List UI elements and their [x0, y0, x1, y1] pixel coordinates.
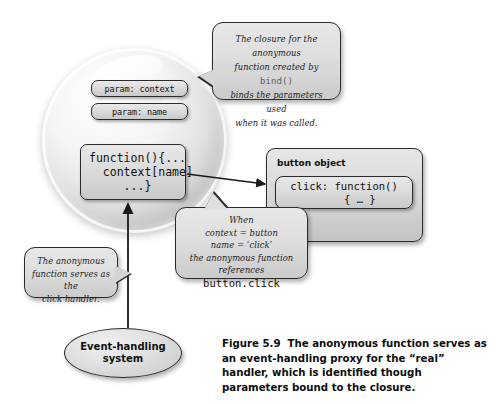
figure-number: Figure 5.9: [222, 338, 281, 349]
bubble-closure-line1: The closure for the anonymous: [220, 32, 333, 60]
bubble-handler-line3: click handler.: [30, 293, 112, 306]
bubble-closure-line2: function created by bind(): [220, 60, 333, 88]
param-name-box: param: name: [91, 103, 188, 120]
click-property-box: click: function() { … }: [275, 176, 413, 209]
bubble-closure: The closure for the anonymous function c…: [212, 22, 341, 100]
bubble-closure-line4: when it was called.: [220, 116, 333, 130]
anonymous-function-box: function(){... context[name] ...}: [80, 144, 186, 200]
figure-caption: Figure 5.9The anonymous function serves …: [222, 337, 490, 395]
bubble-when: When context = button name = ‘click’ the…: [175, 207, 308, 279]
param-context-box: param: context: [91, 80, 188, 97]
bubble-closure-line3: binds the parameters used: [220, 88, 333, 116]
bubble-when-line3: name = ‘click’: [181, 239, 302, 252]
bubble-handler-line2: function serves as the: [30, 268, 112, 293]
bubble-handler-line1: The anonymous: [30, 255, 112, 268]
bubble-when-line2: context = button: [181, 227, 302, 240]
bind-call-code: bind(): [260, 76, 293, 86]
figure-diagram: param: context param: name function(){..…: [0, 0, 497, 404]
bubble-closure-line2-text: function created by: [235, 62, 319, 72]
bubble-when-line1: When: [181, 214, 302, 227]
bubble-when-line4: the anonymous function references: [181, 252, 302, 277]
button-object-title: button object: [277, 158, 346, 168]
event-handling-system-node: Event-handling system: [64, 328, 182, 378]
bubble-click-handler-tail: [115, 266, 131, 283]
bubble-when-tail: [204, 193, 228, 210]
button-click-reference-code: button.click: [181, 277, 302, 290]
bubble-click-handler: The anonymous function serves as the cli…: [24, 247, 118, 298]
bubble-closure-tail: [199, 69, 215, 87]
